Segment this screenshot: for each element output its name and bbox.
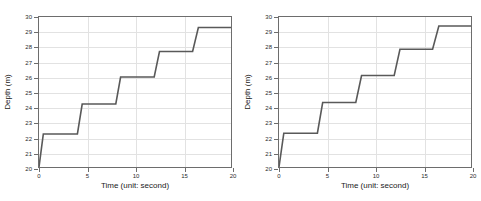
y-axis-tick	[274, 169, 278, 170]
x-axis-tick	[473, 168, 474, 172]
y-axis-tick	[274, 17, 278, 18]
chart-panel-right: Depth (m) 2021222324252627282930 0510152…	[240, 0, 480, 201]
y-axis-tick-label: 20	[25, 166, 32, 172]
series-depth-staircase	[39, 28, 231, 168]
y-axis-tick-label: 23	[265, 120, 272, 126]
y-axis-tick	[34, 139, 38, 140]
y-axis-tick	[34, 108, 38, 109]
figure-two-panel-staircase-plots: Depth (m) 2021222324252627282930 0510152…	[0, 0, 481, 201]
y-axis-tick	[34, 17, 38, 18]
y-axis-tick	[34, 78, 38, 79]
x-axis-tick-label: 5	[326, 173, 329, 179]
x-axis-tick	[376, 168, 377, 172]
data-curve-left	[39, 17, 231, 167]
series-depth-staircase	[279, 26, 471, 167]
x-axis-tick	[88, 168, 89, 172]
y-axis-tick	[274, 32, 278, 33]
y-axis-tick-label: 22	[25, 136, 32, 142]
y-axis-tick	[274, 108, 278, 109]
y-axis-tick-label: 24	[265, 105, 272, 111]
y-axis-tick	[274, 78, 278, 79]
plot-area-right: 2021222324252627282930 05101520	[278, 16, 472, 168]
y-axis-tick-label: 22	[265, 136, 272, 142]
data-curve-right	[279, 17, 471, 167]
y-axis-tick	[34, 123, 38, 124]
plot-area-left: 2021222324252627282930 05101520	[38, 16, 232, 168]
y-axis-tick-label: 27	[265, 60, 272, 66]
y-axis-tick	[274, 139, 278, 140]
y-axis-label-left: Depth (m)	[4, 74, 12, 110]
y-axis-tick-label: 20	[265, 166, 272, 172]
x-axis-tick-label: 20	[230, 173, 237, 179]
y-axis-tick-label: 30	[25, 14, 32, 20]
y-axis-tick	[34, 169, 38, 170]
y-axis-tick-label: 28	[25, 44, 32, 50]
x-axis-tick-label: 10	[373, 173, 380, 179]
x-axis-tick	[39, 168, 40, 172]
y-axis-tick	[274, 154, 278, 155]
y-axis-tick	[274, 93, 278, 94]
y-axis-tick-label: 25	[25, 90, 32, 96]
y-axis-tick-label: 29	[265, 29, 272, 35]
x-axis-tick-label: 0	[37, 173, 40, 179]
y-axis-tick-label: 21	[265, 151, 272, 157]
y-axis-tick-label: 26	[25, 75, 32, 81]
chart-panel-left: Depth (m) 2021222324252627282930 0510152…	[0, 0, 240, 201]
y-axis-tick	[34, 32, 38, 33]
x-axis-tick	[185, 168, 186, 172]
y-axis-tick-label: 26	[265, 75, 272, 81]
y-axis-tick	[274, 47, 278, 48]
y-axis-tick-label: 28	[265, 44, 272, 50]
y-axis-tick-label: 24	[25, 105, 32, 111]
x-axis-tick-label: 0	[277, 173, 280, 179]
y-axis-tick	[34, 154, 38, 155]
x-axis-tick-label: 5	[86, 173, 89, 179]
x-axis-tick	[136, 168, 137, 172]
y-axis-tick-label: 30	[265, 14, 272, 20]
y-axis-tick	[34, 63, 38, 64]
y-axis-tick	[34, 47, 38, 48]
x-axis-label-right: Time (unit: second)	[278, 182, 472, 190]
y-axis-label-right: Depth (m)	[244, 74, 252, 110]
y-axis-tick	[274, 63, 278, 64]
x-axis-tick-label: 15	[181, 173, 188, 179]
y-axis-tick-label: 23	[25, 120, 32, 126]
x-axis-tick-label: 10	[133, 173, 140, 179]
x-axis-tick	[279, 168, 280, 172]
y-axis-tick	[34, 93, 38, 94]
x-axis-tick	[328, 168, 329, 172]
x-axis-label-left: Time (unit: second)	[38, 182, 232, 190]
x-axis-tick-label: 20	[470, 173, 477, 179]
x-axis-tick-label: 15	[421, 173, 428, 179]
x-axis-tick	[233, 168, 234, 172]
y-axis-tick-label: 27	[25, 60, 32, 66]
y-axis-tick-label: 29	[25, 29, 32, 35]
y-axis-tick-label: 25	[265, 90, 272, 96]
x-axis-tick	[425, 168, 426, 172]
y-axis-tick-label: 21	[25, 151, 32, 157]
y-axis-tick	[274, 123, 278, 124]
